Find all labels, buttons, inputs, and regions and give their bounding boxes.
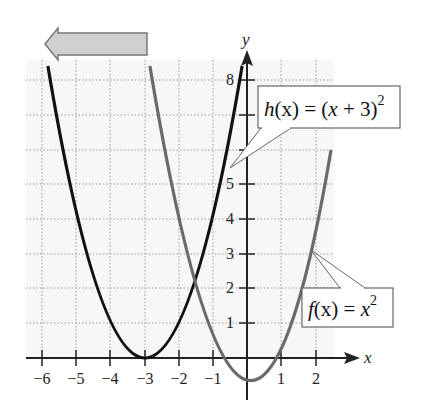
- x-tick-labels: −6 −5 −4 −3 −2 −1 1 2: [33, 370, 320, 387]
- x-tick-label: −6: [33, 370, 50, 387]
- x-tick-label: −2: [170, 370, 187, 387]
- h-label: h(x) = (x + 3)2: [264, 93, 385, 121]
- y-tick-label: 1: [226, 314, 234, 331]
- x-tick-label: −3: [136, 370, 153, 387]
- y-tick-label: 8: [226, 71, 234, 88]
- x-tick-label: −1: [204, 370, 221, 387]
- y-axis-label: y: [240, 30, 250, 49]
- y-tick-label: 4: [226, 210, 234, 227]
- x-tick-label: 2: [312, 370, 320, 387]
- x-tick-label: −4: [101, 370, 118, 387]
- x-axis-label: x: [363, 348, 372, 367]
- y-tick-label: 2: [226, 279, 234, 296]
- graph-canvas: −6 −5 −4 −3 −2 −1 1 2 1 2 3 4 5 8 y x h(…: [0, 0, 422, 405]
- y-tick-label: 5: [226, 175, 234, 192]
- f-label: f(x) = x2: [308, 293, 377, 321]
- y-tick-label: 3: [226, 245, 234, 262]
- shift-left-arrow-icon: [45, 28, 147, 60]
- x-tick-label: 1: [277, 370, 285, 387]
- x-tick-label: −5: [67, 370, 84, 387]
